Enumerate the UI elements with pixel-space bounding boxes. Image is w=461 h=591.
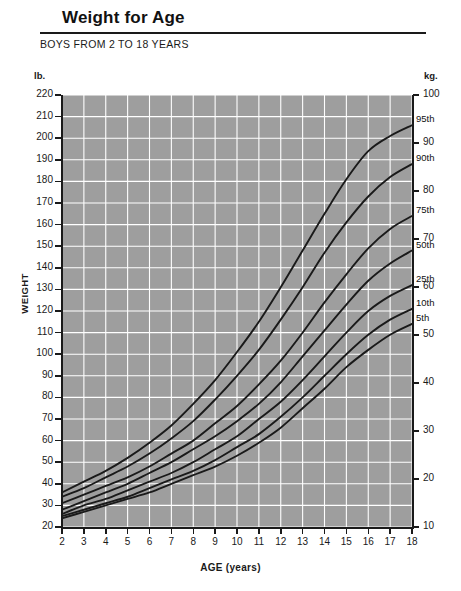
title-divider [40, 32, 426, 34]
y-tick-left [55, 332, 61, 334]
y-tick-label-left: 160 [21, 218, 53, 229]
percentile-label-10th: 10th [416, 297, 435, 308]
x-tick-label: 4 [94, 536, 118, 547]
x-tick [389, 528, 391, 534]
y-tick-label-left: 30 [21, 498, 53, 509]
y-tick-left [55, 505, 61, 507]
unit-label-kilograms: kg. [424, 70, 438, 81]
x-tick-label: 8 [181, 536, 205, 547]
y-tick-label-left: 170 [21, 196, 53, 207]
x-tick-label: 14 [313, 536, 337, 547]
percentile-label-5th: 5th [416, 312, 429, 323]
growth-chart-page: Weight for Age BOYS FROM 2 TO 18 YEARS l… [0, 0, 461, 591]
x-tick [258, 528, 260, 534]
y-tick-left [55, 353, 61, 355]
x-tick [149, 528, 151, 534]
percentile-label-95th: 95th [416, 113, 435, 124]
x-axis-title: AGE (years) [0, 562, 461, 573]
x-tick [324, 528, 326, 534]
x-tick [83, 528, 85, 534]
x-tick-label: 10 [225, 536, 249, 547]
y-tick-label-left: 150 [21, 239, 53, 250]
y-tick-left [55, 440, 61, 442]
y-tick-left [55, 418, 61, 420]
y-tick-right [413, 286, 419, 288]
x-tick-label: 15 [334, 536, 358, 547]
y-tick-label-right: 100 [423, 88, 453, 99]
unit-label-pounds: lb. [34, 70, 45, 81]
y-tick-left [55, 245, 61, 247]
x-tick-label: 3 [72, 536, 96, 547]
percentile-label-50th: 50th [416, 239, 435, 250]
y-tick-left [55, 94, 61, 96]
y-tick-label-left: 80 [21, 390, 53, 401]
y-tick-label-right: 20 [423, 472, 453, 483]
x-tick [411, 528, 413, 534]
y-tick-label-right: 30 [423, 424, 453, 435]
y-tick-label-left: 20 [21, 520, 53, 531]
x-tick-label: 13 [291, 536, 315, 547]
y-tick-left [55, 289, 61, 291]
y-tick-right [413, 190, 419, 192]
page-title: Weight for Age [62, 8, 185, 28]
y-tick-right [413, 478, 419, 480]
y-tick-left [55, 375, 61, 377]
y-tick-label-left: 100 [21, 347, 53, 358]
y-tick-left [55, 267, 61, 269]
y-tick-left [55, 526, 61, 528]
y-tick-label-left: 200 [21, 131, 53, 142]
y-tick-left [55, 202, 61, 204]
x-tick [236, 528, 238, 534]
y-tick-right [413, 526, 419, 528]
y-tick-right [413, 142, 419, 144]
plot-area [62, 95, 412, 527]
y-tick-left [55, 159, 61, 161]
page-subtitle: BOYS FROM 2 TO 18 YEARS [40, 38, 189, 50]
x-tick-label: 11 [247, 536, 271, 547]
y-tick-label-left: 190 [21, 153, 53, 164]
y-tick-left [55, 397, 61, 399]
x-tick-label: 12 [269, 536, 293, 547]
y-tick-label-left: 210 [21, 110, 53, 121]
chart-canvas [62, 95, 412, 527]
x-tick-label: 16 [356, 536, 380, 547]
x-tick [346, 528, 348, 534]
y-tick-label-left: 220 [21, 88, 53, 99]
percentile-label-75th: 75th [416, 204, 435, 215]
y-tick-right [413, 94, 419, 96]
y-tick-left [55, 310, 61, 312]
y-tick-label-left: 110 [21, 326, 53, 337]
y-tick-left [55, 461, 61, 463]
x-tick [302, 528, 304, 534]
x-tick [280, 528, 282, 534]
x-tick [105, 528, 107, 534]
y-tick-left [55, 116, 61, 118]
percentile-label-25th: 25th [416, 273, 435, 284]
y-tick-label-left: 50 [21, 455, 53, 466]
y-tick-left [55, 181, 61, 183]
x-tick-label: 17 [378, 536, 402, 547]
y-axis-right-line [412, 95, 414, 528]
y-tick-label-left: 180 [21, 174, 53, 185]
y-tick-label-right: 50 [423, 328, 453, 339]
y-tick-left [55, 224, 61, 226]
y-tick-right [413, 430, 419, 432]
x-tick-label: 18 [400, 536, 424, 547]
x-tick-label: 7 [159, 536, 183, 547]
y-tick-label-left: 60 [21, 434, 53, 445]
x-tick [214, 528, 216, 534]
y-tick-label-right: 40 [423, 376, 453, 387]
y-tick-left [55, 483, 61, 485]
y-tick-left [55, 137, 61, 139]
x-tick-label: 2 [50, 536, 74, 547]
y-tick-label-right: 10 [423, 520, 453, 531]
y-tick-label-right: 90 [423, 136, 453, 147]
x-tick-label: 5 [116, 536, 140, 547]
y-axis-title: WEIGHT [19, 264, 30, 324]
x-tick-label: 6 [138, 536, 162, 547]
x-tick [61, 528, 63, 534]
y-tick-label-left: 40 [21, 477, 53, 488]
y-axis-left-line [61, 95, 63, 528]
x-tick [193, 528, 195, 534]
x-tick-label: 9 [203, 536, 227, 547]
